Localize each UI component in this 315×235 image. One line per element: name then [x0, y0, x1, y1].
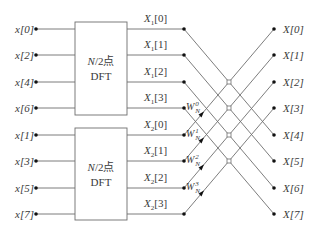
output-label-X1: X[1] — [283, 49, 304, 61]
output-label-X5: X[5] — [283, 155, 304, 167]
crossing-nodes — [227, 80, 231, 163]
twiddle-W1: W1N — [186, 128, 200, 142]
label-X1-3: X1[3] — [144, 91, 167, 108]
label-X1-0: X1[0] — [144, 12, 167, 29]
output-label-X0: X[0] — [283, 23, 304, 35]
output-label-X6: X[6] — [283, 182, 304, 194]
twiddle-W0: W0N — [186, 101, 200, 115]
dft-block-even-label: N/2点 DFT — [75, 54, 127, 84]
dft-block-odd-label: N/2点 DFT — [75, 160, 127, 190]
output-label-X2: X[2] — [283, 76, 304, 88]
label-X2-2: X2[2] — [144, 171, 167, 188]
input-label-x6: x[6] — [0, 102, 34, 114]
input-label-x4: x[4] — [0, 76, 34, 88]
input-label-x2: x[2] — [0, 49, 34, 61]
input-label-x5: x[5] — [0, 182, 34, 194]
input-label-x3: x[3] — [0, 155, 34, 167]
label-X2-3: X2[3] — [144, 197, 167, 214]
twiddle-W2: W2N — [186, 154, 200, 168]
label-X1-2: X1[2] — [144, 65, 167, 82]
output-label-X7: X[7] — [283, 208, 304, 220]
label-X2-1: X2[1] — [144, 144, 167, 161]
twiddle-W3: W3N — [186, 181, 200, 195]
output-label-X3: X[3] — [283, 102, 304, 114]
output-label-X4: X[4] — [283, 129, 304, 141]
input-label-x0: x[0] — [0, 23, 34, 35]
input-label-x7: x[7] — [0, 208, 34, 220]
input-label-x1: x[1] — [0, 129, 34, 141]
label-X2-0: X2[0] — [144, 118, 167, 135]
label-X1-1: X1[1] — [144, 38, 167, 55]
input-lines — [36, 29, 75, 214]
